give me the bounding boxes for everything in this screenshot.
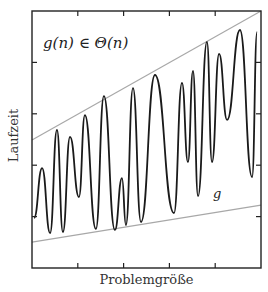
curve-g [34,30,257,233]
curve-label-g: g [213,186,221,201]
x-axis-label: Problemgröße [32,272,261,287]
lower-bound-line [32,205,261,242]
y-axis-label: Laufzeit [6,96,21,176]
theta-annotation: g(n) ∈ Θ(n) [43,34,128,52]
chart-canvas [0,0,268,292]
